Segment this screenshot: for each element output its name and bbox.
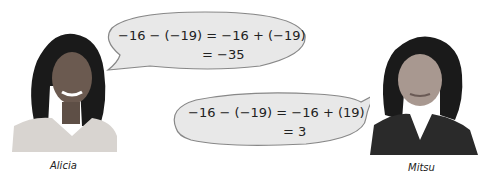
mitsu-equation-line2: = 3 [283, 124, 306, 139]
alicia-equation-line2: = −35 [202, 47, 244, 62]
mitsu-name-label: Mitsu [408, 162, 435, 173]
mitsu-photo [370, 30, 482, 155]
alicia-equation-line1: −16 − (−19) = −16 + (−19) [118, 28, 306, 43]
alicia-name-label: Alicia [50, 160, 77, 171]
mitsu-equation-line1: −16 − (−19) = −16 + (19) [188, 105, 365, 120]
